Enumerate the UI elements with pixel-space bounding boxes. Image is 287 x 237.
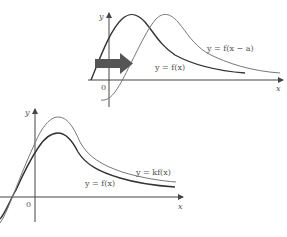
bottom-label-kf: y = kf(x) <box>135 168 171 177</box>
bottom-graph: y 0 x y = kf(x) y = f(x) <box>0 108 183 223</box>
bottom-y-label: y <box>24 108 30 117</box>
top-origin-label: 0 <box>101 83 106 92</box>
bottom-origin-label: 0 <box>26 200 31 209</box>
top-y-label: y <box>98 12 104 21</box>
transformation-diagram: y 0 x y = f(x − a) y = f(x) y 0 x y = kf… <box>0 0 287 237</box>
bottom-label-f: y = f(x) <box>84 179 115 188</box>
top-graph: y 0 x y = f(x − a) y = f(x) <box>88 12 283 107</box>
top-x-label: x <box>276 84 281 93</box>
top-curve-f-shifted <box>101 14 280 100</box>
top-label-f: y = f(x) <box>154 63 185 72</box>
bottom-x-label: x <box>178 202 183 211</box>
top-label-f-shifted: y = f(x − a) <box>206 44 254 53</box>
